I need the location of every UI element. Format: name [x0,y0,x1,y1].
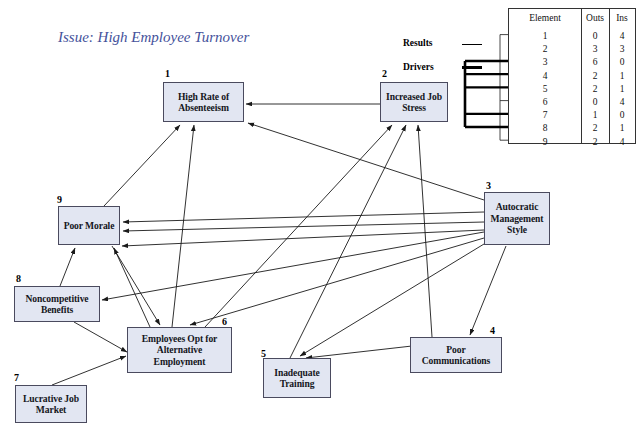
table-cell-ins-6: 4 [609,97,635,107]
table-cell-ins-1: 4 [609,31,635,41]
element-summary-table: Element Outs Ins 10423336042152160471082… [508,8,636,144]
table-cell-outs-6: 0 [581,97,609,107]
table-header-element: Element [509,13,581,23]
table-header-outs: Outs [581,13,609,23]
table-cell-element-4: 4 [509,71,581,81]
table-cell-outs-3: 6 [581,57,609,67]
table-cell-element-3: 3 [509,57,581,67]
table-cell-element-9: 9 [509,137,581,147]
table-cell-ins-9: 4 [609,137,635,147]
table-cell-outs-2: 3 [581,44,609,54]
table-cell-ins-2: 3 [609,44,635,54]
table-cell-element-1: 1 [509,31,581,41]
table-cell-outs-7: 1 [581,110,609,120]
table-cell-element-5: 5 [509,84,581,94]
table-cell-element-8: 8 [509,123,581,133]
table-cell-outs-5: 2 [581,84,609,94]
table-cell-outs-4: 2 [581,71,609,81]
table-header-ins: Ins [609,13,635,23]
table-cell-ins-3: 0 [609,57,635,67]
table-cell-ins-4: 1 [609,71,635,81]
table-cell-outs-1: 0 [581,31,609,41]
diagram-canvas: Issue: High Employee Turnover 1High Rate… [0,0,641,438]
table-cell-outs-8: 2 [581,123,609,133]
table-cell-element-6: 6 [509,97,581,107]
table-cell-ins-7: 0 [609,110,635,120]
table-cell-ins-5: 1 [609,84,635,94]
table-cell-element-7: 7 [509,110,581,120]
table-cell-ins-8: 1 [609,123,635,133]
table-cell-outs-9: 2 [581,137,609,147]
table-cell-element-2: 2 [509,44,581,54]
